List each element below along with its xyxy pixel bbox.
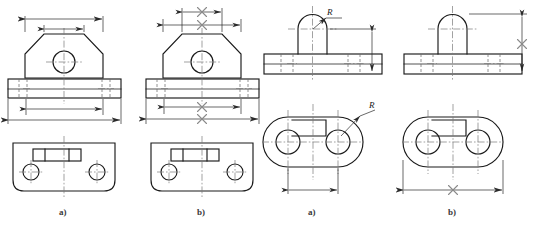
left-a-front-view	[8, 28, 121, 104]
figure-left-b	[146, 8, 259, 200]
right-b-plan-view	[402, 104, 504, 180]
dim-left-a-base-overall-width	[8, 99, 121, 124]
technical-drawing-canvas: R R	[0, 0, 540, 232]
right-b-front-view	[404, 6, 522, 80]
figure-right-a: R R	[262, 6, 382, 194]
dim-left-b-base-inner-width	[164, 99, 241, 114]
radius-label-rib: R	[326, 7, 333, 17]
dim-right-b-rib-height	[469, 14, 527, 71]
top-view-slot	[171, 149, 219, 161]
dim-left-b-base-overall-width	[146, 99, 259, 124]
figure-right-b	[402, 6, 527, 195]
caption-left-b: b)	[197, 207, 205, 217]
right-a-front-view: R	[264, 6, 382, 80]
dim-right-a-rib-height	[330, 29, 376, 71]
drawing-sheet: R R	[0, 0, 540, 232]
dim-left-a-base-inner-width	[26, 99, 103, 115]
caption-left-a: a)	[59, 207, 67, 217]
radius-leader-shelf-plan	[360, 110, 375, 116]
left-b-front-view	[146, 28, 259, 104]
left-b-top-view	[151, 136, 253, 199]
left-a-top-view	[13, 136, 115, 199]
caption-right-a: a)	[308, 207, 316, 217]
caption-right-b: b)	[448, 207, 456, 217]
radius-leader-line	[313, 18, 326, 29]
right-a-plan-view: R	[262, 100, 375, 180]
top-view-slot	[33, 149, 81, 161]
radius-label-hole: R	[368, 100, 375, 110]
figure-left-a	[8, 16, 121, 199]
